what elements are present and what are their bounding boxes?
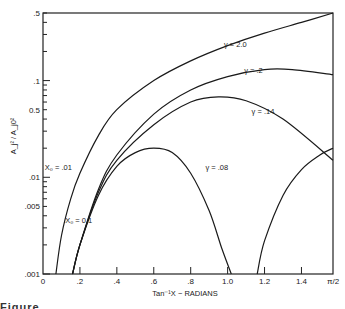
x-axis-title: Tan⁻¹X − RADIANS <box>152 289 217 298</box>
y-tick-label: .01 <box>29 173 41 182</box>
curve-label: γ = 2.0 <box>224 40 247 49</box>
curves <box>56 13 333 274</box>
y-tick-label: .1 <box>33 77 40 86</box>
curve-label: γ = .08 <box>205 163 228 172</box>
x-tick-label: 1.4 <box>296 277 308 286</box>
curve-label: X₀ = .01 <box>45 163 72 172</box>
x-tick-label: .2 <box>77 277 84 286</box>
figure-caption-cutoff: Figure <box>0 301 345 309</box>
curve-label: X₀ = 0.1 <box>65 216 92 225</box>
y-axis-title: A_j² / A_j0² <box>9 117 18 154</box>
x-tick-label: 0 <box>41 277 46 286</box>
series-curve <box>73 69 334 274</box>
curve-labels: γ = 2.0γ = .2γ = .14γ = .08X₀ = .01X₀ = … <box>45 40 275 224</box>
x-tick-label: .8 <box>187 277 194 286</box>
y-tick-label: .001 <box>24 270 40 279</box>
series-curve <box>257 148 333 274</box>
x-tick-label: .6 <box>150 277 157 286</box>
x-tick-label: 1.2 <box>259 277 271 286</box>
series-curve <box>73 97 334 274</box>
y-tick-label: 0.5 <box>29 106 41 115</box>
x-tick-label: π/2 <box>327 277 340 286</box>
axes-frame: 0.2.4.6.81.01.21.4π/2.001.005.010.5.1.5 <box>24 9 339 286</box>
plot-frame <box>43 13 333 274</box>
curve-label: γ = .14 <box>252 107 275 116</box>
y-tick-label: .005 <box>24 202 40 211</box>
curve-label: γ = .2 <box>244 66 263 75</box>
x-tick-label: 1.0 <box>222 277 234 286</box>
y-tick-label: .5 <box>33 9 40 18</box>
x-tick-label: .4 <box>114 277 121 286</box>
series-curve <box>56 13 333 274</box>
